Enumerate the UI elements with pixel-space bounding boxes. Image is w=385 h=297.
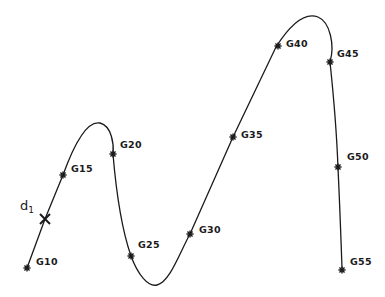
point-label-g20: G20	[120, 139, 142, 150]
point-marker-g25-icon	[127, 252, 134, 259]
curve-diagram: G10G15G20G25G30G35G40G45G50G55 d1	[0, 0, 385, 297]
point-label-g45: G45	[337, 48, 359, 59]
point-labels: G10G15G20G25G30G35G40G45G50G55	[36, 38, 372, 267]
point-label-g40: G40	[286, 38, 308, 49]
point-label-g55: G55	[350, 256, 372, 267]
point-label-g25: G25	[138, 239, 160, 250]
point-label-g15: G15	[71, 163, 93, 174]
diagram-stage: G10G15G20G25G30G35G40G45G50G55 d1	[0, 0, 385, 297]
point-label-g50: G50	[347, 151, 369, 162]
point-label-g35: G35	[241, 129, 263, 140]
trajectory-curve	[27, 16, 342, 285]
point-marker-g15-icon	[59, 171, 66, 178]
point-markers	[23, 42, 345, 273]
point-label-g30: G30	[199, 224, 221, 235]
point-marker-g30-icon	[186, 230, 193, 237]
point-marker-g50-icon	[334, 163, 341, 170]
d1-label: d1	[20, 198, 34, 215]
point-label-g10: G10	[36, 256, 58, 267]
d1-cross-marker: d1	[20, 198, 50, 224]
point-marker-g35-icon	[229, 133, 236, 140]
point-marker-g10-icon	[23, 264, 30, 271]
point-marker-g40-icon	[274, 42, 281, 49]
point-marker-g20-icon	[109, 150, 116, 157]
point-marker-g55-icon	[338, 266, 345, 273]
point-marker-g45-icon	[326, 58, 333, 65]
